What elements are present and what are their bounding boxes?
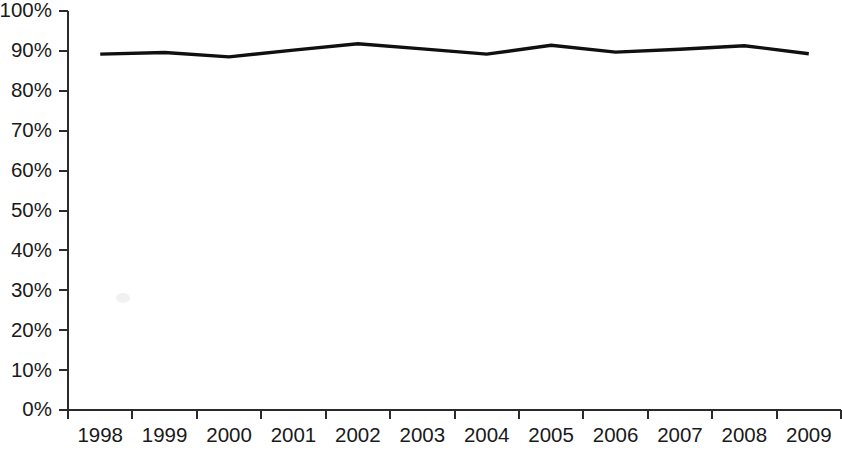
y-tick-label: 100%: [0, 0, 52, 21]
x-tick-label: 2002: [335, 423, 381, 446]
y-tick-label: 70%: [11, 118, 52, 141]
y-tick-label: 10%: [11, 358, 52, 381]
x-tick-label: 2000: [206, 423, 252, 446]
x-tick-label: 2009: [786, 423, 832, 446]
x-tick-label: 1998: [77, 423, 123, 446]
x-tick-label: 2003: [399, 423, 445, 446]
y-tick-label: 80%: [11, 78, 52, 101]
y-tick-label: 60%: [11, 158, 52, 181]
x-tick-label: 2007: [657, 423, 703, 446]
y-tick-label: 30%: [11, 278, 52, 301]
y-tick-label: 50%: [11, 198, 52, 221]
scan-artifact: [116, 293, 130, 303]
x-tick-label: 2001: [271, 423, 317, 446]
x-tick-label: 2005: [528, 423, 574, 446]
x-tick-label: 2004: [464, 423, 510, 446]
chart-canvas: 0%10%20%30%40%50%60%70%80%90%100% 199819…: [0, 0, 842, 452]
y-tick-label: 40%: [11, 238, 52, 261]
chart-background: [0, 0, 842, 452]
x-tick-label: 2006: [593, 423, 639, 446]
y-tick-label: 90%: [11, 38, 52, 61]
y-tick-label: 0%: [22, 397, 52, 420]
y-tick-label: 20%: [11, 318, 52, 341]
line-chart: 0%10%20%30%40%50%60%70%80%90%100% 199819…: [0, 0, 842, 452]
x-tick-label: 2008: [722, 423, 768, 446]
x-tick-label: 1999: [142, 423, 188, 446]
